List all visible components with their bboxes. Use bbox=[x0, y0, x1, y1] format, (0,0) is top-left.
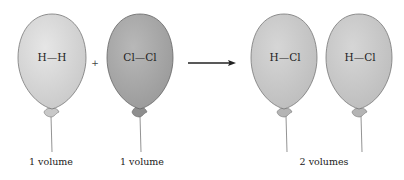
balloon-diagram bbox=[0, 0, 404, 180]
reaction-arrow bbox=[188, 60, 236, 66]
balloon-h2 bbox=[18, 14, 86, 152]
volume-label-h2: 1 volume bbox=[29, 156, 73, 167]
plus-sign: + bbox=[91, 58, 99, 68]
balloon-hcl-1 bbox=[251, 14, 317, 152]
molecule-label-hcl-1: H—Cl bbox=[269, 51, 300, 63]
balloon-cl2 bbox=[107, 14, 173, 152]
molecule-label-hcl-2: H—Cl bbox=[344, 51, 375, 63]
volume-label-products: 2 volumes bbox=[300, 156, 349, 167]
molecule-label-h2: H—H bbox=[38, 51, 67, 63]
volume-label-cl2: 1 volume bbox=[120, 156, 164, 167]
balloon-hcl-2 bbox=[326, 14, 392, 152]
molecule-label-cl2: Cl—Cl bbox=[123, 51, 156, 63]
